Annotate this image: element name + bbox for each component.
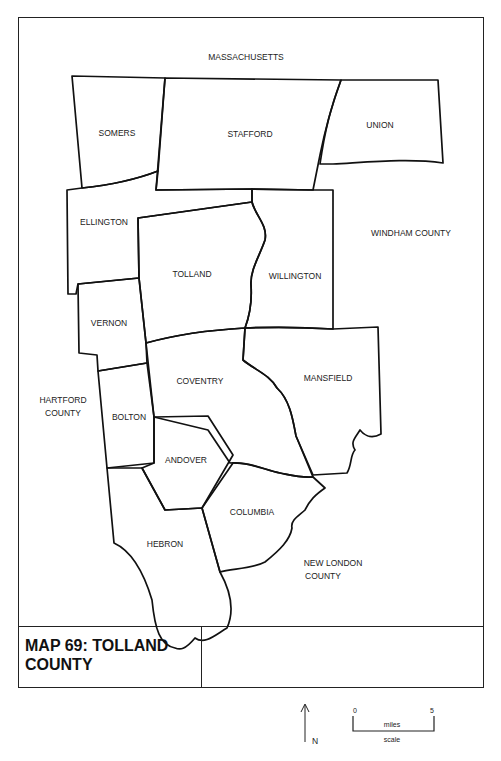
legend: N 0 5 miles scale [0, 0, 501, 761]
scale-caption: scale [384, 736, 400, 743]
scale-start: 0 [353, 707, 357, 714]
scale-end: 5 [430, 707, 434, 714]
scale-unit: miles [384, 721, 401, 728]
north-label: N [312, 736, 318, 746]
north-arrow-icon [301, 704, 309, 742]
